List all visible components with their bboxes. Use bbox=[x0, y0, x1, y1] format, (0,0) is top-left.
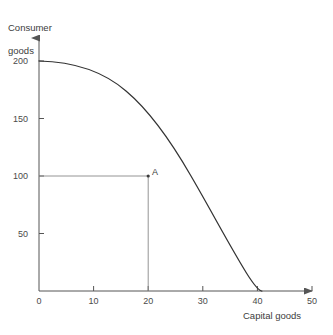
x-axis-ticks bbox=[94, 286, 312, 291]
y-tick-label-150: 150 bbox=[2, 114, 28, 124]
y-axis-title-line1: Consumer bbox=[8, 22, 52, 34]
x-axis-title: Capital goods bbox=[243, 310, 301, 322]
y-tick-label-50: 50 bbox=[2, 229, 28, 239]
y-tick-label-200: 200 bbox=[2, 56, 28, 66]
x-tick-label-40: 40 bbox=[245, 296, 269, 306]
y-axis-title-line2: goods bbox=[8, 45, 52, 57]
y-tick-label-100: 100 bbox=[2, 171, 28, 181]
y-axis-ticks bbox=[39, 61, 44, 234]
x-tick-label-30: 30 bbox=[191, 296, 215, 306]
x-tick-label-0: 0 bbox=[27, 296, 51, 306]
x-tick-label-50: 50 bbox=[300, 296, 324, 306]
point-a-label: A bbox=[152, 167, 158, 177]
point-a-marker bbox=[147, 174, 150, 177]
ppf-chart: Consumer goods Capital goods 200 150 100… bbox=[0, 0, 333, 335]
x-tick-label-20: 20 bbox=[136, 296, 160, 306]
x-tick-label-10: 10 bbox=[82, 296, 106, 306]
